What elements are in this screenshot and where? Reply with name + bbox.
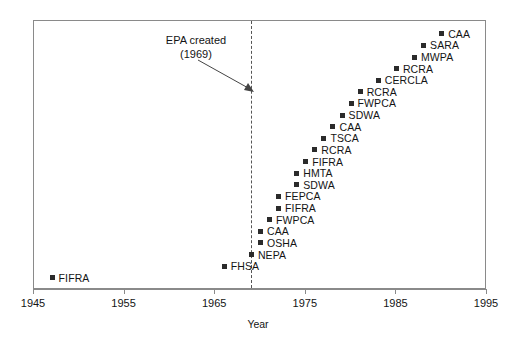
- data-point-label: FIFRA: [281, 203, 316, 214]
- data-point-label: CAA: [444, 29, 470, 40]
- data-point: RCRA: [312, 144, 351, 155]
- data-point-label: TSCA: [326, 133, 358, 144]
- data-point-label: FEPCA: [281, 191, 321, 202]
- x-tick-1975: [305, 289, 306, 294]
- data-point: FIFRA: [50, 272, 90, 283]
- x-tick-1955: [124, 289, 125, 294]
- plot-area: FIFRAFHSANEPAOSHACAAFWPCAFIFRAFEPCASDWAH…: [33, 20, 486, 289]
- x-tick-1945: [33, 289, 34, 294]
- data-point: TSCA: [321, 132, 358, 143]
- x-tick-label-1985: 1985: [383, 297, 407, 309]
- data-point: HMTA: [294, 167, 332, 178]
- x-tick-1985: [395, 289, 396, 294]
- data-point: CAA: [258, 225, 289, 236]
- data-point: FHSA: [222, 260, 259, 271]
- data-point-label: NEPA: [254, 250, 286, 261]
- data-point-label: MWPA: [417, 52, 453, 63]
- x-tick-label-1945: 1945: [21, 297, 45, 309]
- data-point-label: RCRA: [399, 64, 433, 75]
- data-point-label: CAA: [335, 122, 361, 133]
- x-tick-1965: [214, 289, 215, 294]
- data-point: FEPCA: [276, 190, 321, 201]
- x-tick-1995: [486, 289, 487, 294]
- data-point: CAA: [330, 120, 361, 131]
- data-point: SDWA: [340, 109, 381, 120]
- data-point: FWPCA: [349, 97, 396, 108]
- data-point: RCRA: [358, 86, 397, 97]
- data-point: CAA: [439, 28, 470, 39]
- data-point: SDWA: [294, 179, 335, 190]
- data-point-label: FWPCA: [354, 98, 396, 109]
- data-point: FWPCA: [267, 213, 314, 224]
- x-tick-label-1965: 1965: [202, 297, 226, 309]
- annotation-line-2: (1969): [140, 47, 252, 61]
- data-point: NEPA: [249, 248, 286, 259]
- data-point-label: SDWA: [345, 110, 381, 121]
- data-point-label: CAA: [263, 226, 289, 237]
- x-axis-title: Year: [0, 318, 516, 330]
- data-point: RCRA: [394, 62, 433, 73]
- data-point-label: FHSA: [227, 261, 259, 272]
- x-tick-label-1955: 1955: [111, 297, 135, 309]
- x-axis-line: [33, 289, 486, 290]
- x-tick-label-1995: 1995: [474, 297, 498, 309]
- data-point: SARA: [421, 39, 459, 50]
- data-point-label: FIFRA: [308, 157, 343, 168]
- data-point-label: RCRA: [317, 145, 351, 156]
- x-tick-label-1975: 1975: [293, 297, 317, 309]
- data-point: MWPA: [412, 51, 453, 62]
- data-point-label: CERCLA: [381, 75, 428, 86]
- epa-created-annotation: EPA created (1969): [140, 33, 252, 61]
- data-point: CERCLA: [376, 74, 428, 85]
- data-point: OSHA: [258, 237, 297, 248]
- data-point: FIFRA: [303, 155, 343, 166]
- environmental-legislation-timeline-chart: FIFRAFHSANEPAOSHACAAFWPCAFIFRAFEPCASDWAH…: [0, 0, 516, 341]
- data-point-label: HMTA: [299, 168, 332, 179]
- data-point: FIFRA: [276, 202, 316, 213]
- data-point-label: OSHA: [263, 238, 297, 249]
- data-point-label: SDWA: [299, 180, 335, 191]
- annotation-line-1: EPA created: [140, 33, 252, 47]
- data-point-label: FWPCA: [272, 215, 314, 226]
- data-point-label: SARA: [426, 40, 459, 51]
- data-point-label: RCRA: [363, 87, 397, 98]
- data-point-label: FIFRA: [55, 273, 90, 284]
